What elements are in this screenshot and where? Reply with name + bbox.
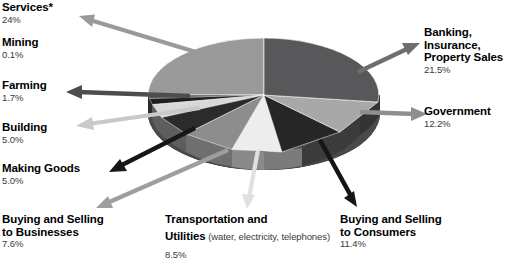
label-banking-insurance-property: Banking, Insurance, Property Sales 21.5% bbox=[424, 26, 503, 75]
label-bsc-line2: to Consumers bbox=[340, 226, 442, 239]
label-mining-title: Mining bbox=[2, 36, 38, 49]
label-banking-line1: Banking, bbox=[424, 26, 503, 39]
label-bsc-line1: Buying and Selling bbox=[340, 213, 442, 226]
arrow-services bbox=[79, 15, 196, 53]
label-banking-line3: Property Sales bbox=[424, 51, 503, 64]
label-farming-pct: 1.7% bbox=[2, 92, 47, 103]
label-banking-line2: Insurance, bbox=[424, 39, 503, 52]
label-services-title: Services* bbox=[2, 1, 53, 14]
arrow-banking bbox=[358, 43, 420, 72]
slice-services bbox=[148, 38, 264, 95]
label-making-goods-title: Making Goods bbox=[2, 162, 80, 175]
label-building: Building 5.0% bbox=[2, 121, 47, 145]
label-transport-line2: Utilities bbox=[165, 230, 206, 242]
label-banking-pct: 21.5% bbox=[424, 64, 503, 75]
label-making-goods: Making Goods 5.0% bbox=[2, 162, 80, 186]
label-bsb-pct: 7.6% bbox=[2, 238, 104, 249]
label-building-pct: 5.0% bbox=[2, 134, 47, 145]
label-services-pct: 24% bbox=[2, 14, 53, 25]
label-transportation-utilities: Transportation and Utilities (water, ele… bbox=[165, 213, 330, 262]
label-transport-line1: Transportation and bbox=[165, 213, 330, 226]
label-bsb-line1: Buying and Selling bbox=[2, 213, 104, 226]
label-buying-selling-businesses: Buying and Selling to Businesses 7.6% bbox=[2, 213, 104, 249]
label-making-goods-pct: 5.0% bbox=[2, 175, 80, 186]
label-buying-selling-consumers: Buying and Selling to Consumers 11.4% bbox=[340, 213, 442, 249]
label-government-title: Government bbox=[424, 105, 491, 118]
label-mining-pct: 0.1% bbox=[2, 49, 38, 60]
label-mining: Mining 0.1% bbox=[2, 36, 38, 60]
pie-chart-figure: Services* 24% Mining 0.1% Farming 1.7% B… bbox=[0, 0, 528, 268]
label-farming-title: Farming bbox=[2, 79, 47, 92]
label-bsb-line2: to Businesses bbox=[2, 226, 104, 239]
label-government-pct: 12.2% bbox=[424, 118, 491, 129]
label-bsc-pct: 11.4% bbox=[340, 238, 442, 249]
label-building-title: Building bbox=[2, 121, 47, 134]
label-services: Services* 24% bbox=[2, 1, 53, 25]
label-farming: Farming 1.7% bbox=[2, 79, 47, 103]
arrow-buying-selling-businesses bbox=[96, 150, 228, 208]
label-government: Government 12.2% bbox=[424, 105, 491, 129]
